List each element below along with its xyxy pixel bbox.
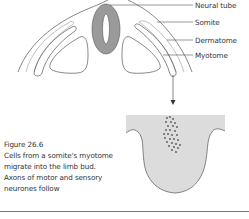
- label-neural-tube: Neural tube: [195, 1, 236, 10]
- arrowhead-icon: [171, 100, 176, 105]
- dermatome-right: [139, 21, 184, 72]
- sclerotome-left: [50, 37, 88, 74]
- neural-canal: [103, 14, 110, 44]
- caption-line-4: neurones follow: [4, 183, 113, 194]
- figure-caption: Figure 26.6 Cells from a somite's myotom…: [4, 139, 113, 194]
- caption-line-1: Cells from a somite's myotome: [4, 150, 113, 161]
- myotome-left: [34, 26, 76, 76]
- label-somite: Somite: [195, 18, 220, 27]
- limb-bud: [126, 115, 225, 193]
- myotome-right: [135, 24, 176, 77]
- label-myotome: Myotome: [195, 51, 228, 60]
- sclerotome-right: [122, 37, 160, 74]
- caption-title: Figure 26.6: [4, 139, 113, 150]
- caption-line-3: Axons of motor and sensory: [4, 172, 113, 183]
- caption-line-2: migrate into the limb bud.: [4, 161, 113, 172]
- label-dermatome: Dermatome: [195, 36, 237, 45]
- bottom-divider: [0, 211, 249, 212]
